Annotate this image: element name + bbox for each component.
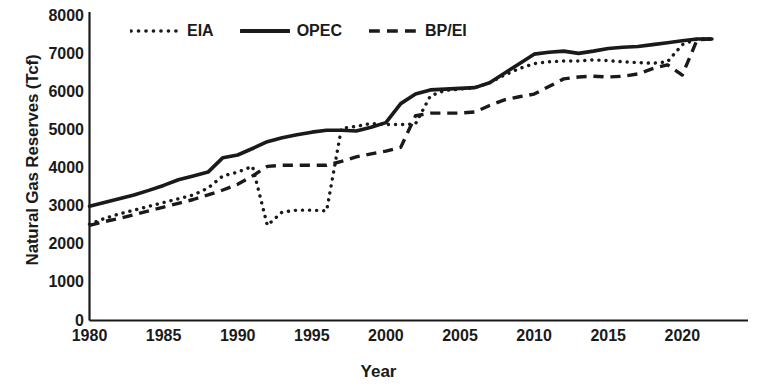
x-tick-label: 2000	[351, 327, 421, 345]
legend-label: OPEC	[297, 22, 342, 40]
legend-label: BP/EI	[425, 22, 467, 40]
legend-label: EIA	[187, 22, 214, 40]
legend-item-bp-ei[interactable]: BP/EI	[368, 22, 467, 40]
x-tick-label: 1995	[277, 327, 347, 345]
y-tick-label: 8000	[26, 8, 84, 24]
y-axis-tick-labels: 800070006000500040003000200010000	[22, 0, 84, 330]
y-tick-label: 7000	[26, 46, 84, 62]
y-tick-label: 6000	[26, 84, 84, 100]
x-tick-label: 1985	[129, 327, 199, 345]
axis-lines	[90, 12, 749, 321]
legend-item-eia[interactable]: EIA	[130, 22, 214, 40]
legend-swatch-solid-icon	[240, 25, 290, 37]
x-tick-label: 2020	[647, 327, 717, 345]
x-axis-title: Year	[0, 362, 757, 382]
x-tick-label: 1980	[55, 327, 125, 345]
natural-gas-reserves-chart: Natural Gas Reserves (Tcf) 8000700060005…	[0, 0, 757, 388]
series-line-eia	[90, 39, 712, 225]
y-tick-label: 5000	[26, 122, 84, 138]
series-line-opec	[90, 39, 712, 206]
legend-item-opec[interactable]: OPEC	[240, 22, 342, 40]
x-tick-label: 2005	[425, 327, 495, 345]
x-tick-label: 1990	[203, 327, 273, 345]
legend-swatch-dashed-icon	[368, 25, 418, 37]
y-tick-label: 2000	[26, 236, 84, 252]
y-tick-label: 4000	[26, 160, 84, 176]
series-line-bp-ei	[90, 39, 712, 225]
x-tick-label: 2015	[573, 327, 643, 345]
y-tick-label: 3000	[26, 198, 84, 214]
x-tick-label: 2010	[499, 327, 569, 345]
data-series-layer	[90, 39, 712, 225]
legend-swatch-dotted-icon	[130, 25, 180, 37]
y-tick-label: 1000	[26, 274, 84, 290]
chart-legend: EIAOPECBP/EI	[130, 22, 467, 40]
